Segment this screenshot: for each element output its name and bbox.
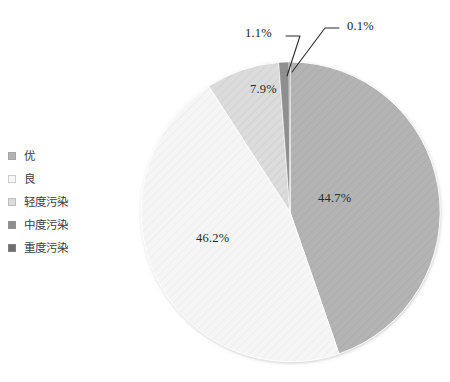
pie-slices-group <box>141 62 440 362</box>
value-label-zhongdu-wuran: 1.1% <box>245 26 272 41</box>
pie-graphic <box>0 0 450 382</box>
pie-chart-figure: 优 良 轻度污染 中度污染 重度污染 <box>0 0 450 382</box>
value-label-you: 44.7% <box>318 191 351 206</box>
value-label-zhongdu-wuran-heavy: 0.1% <box>347 19 374 34</box>
value-label-liang: 46.2% <box>196 231 229 246</box>
value-label-qingdu-wuran: 7.9% <box>250 82 277 97</box>
